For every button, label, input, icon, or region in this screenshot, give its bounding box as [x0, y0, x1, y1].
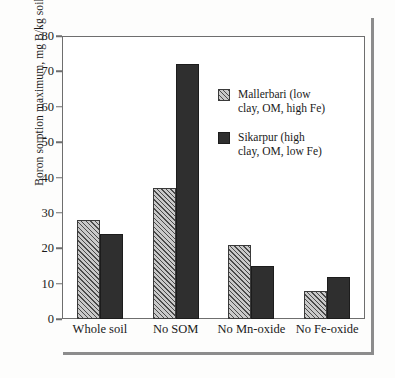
legend-item-mallerbari: Mallerbari (low clay, OM, high Fe) — [218, 88, 325, 115]
outer-frame-bottom-rule — [63, 352, 374, 355]
outer-frame-right-rule — [371, 18, 374, 355]
y-tick-label: 0 — [48, 312, 54, 327]
y-tick-label: 80 — [42, 29, 55, 44]
solid-swatch-icon — [218, 132, 230, 144]
legend-item-sikarpur: Sikarpur (high clay, OM, low Fe) — [218, 131, 325, 158]
y-tick-label: 30 — [42, 205, 55, 220]
chart-page: Boron sorption maximum, mg B/kg soil 010… — [0, 0, 395, 378]
y-tick-label: 50 — [42, 135, 55, 150]
bar-group — [289, 36, 365, 319]
bar-group — [214, 36, 290, 319]
chart-legend: Mallerbari (low clay, OM, high Fe) Sikar… — [218, 88, 325, 174]
x-axis-label: Whole soil — [73, 322, 128, 337]
bar-sikarpur — [251, 266, 274, 319]
bar-sikarpur — [327, 277, 350, 319]
x-axis-label: No SOM — [153, 322, 199, 337]
y-tick-label: 70 — [42, 64, 55, 79]
bar-sikarpur — [100, 234, 123, 319]
legend-label-sikarpur: Sikarpur (high clay, OM, low Fe) — [238, 131, 322, 158]
bar-mallerbari — [228, 245, 251, 319]
y-tick-label: 20 — [42, 241, 55, 256]
x-axis-label: No Mn-oxide — [218, 322, 286, 337]
legend-label-mallerbari: Mallerbari (low clay, OM, high Fe) — [238, 88, 325, 115]
y-tick-label: 10 — [42, 276, 55, 291]
bar-mallerbari — [153, 188, 176, 319]
bar-mallerbari — [304, 291, 327, 319]
hatched-swatch-icon — [218, 89, 230, 101]
bar-plot-bars — [62, 36, 365, 319]
x-axis-labels: Whole soilNo SOMNo Mn-oxideNo Fe-oxide — [62, 322, 365, 346]
y-tick-label: 60 — [42, 99, 55, 114]
x-axis-label: No Fe-oxide — [296, 322, 359, 337]
bar-mallerbari — [77, 220, 100, 319]
bar-group — [138, 36, 214, 319]
bar-sikarpur — [176, 64, 199, 319]
y-tick-label: 40 — [42, 170, 55, 185]
bar-group — [62, 36, 138, 319]
y-axis-ticks: 01020304050607080 — [0, 36, 62, 319]
